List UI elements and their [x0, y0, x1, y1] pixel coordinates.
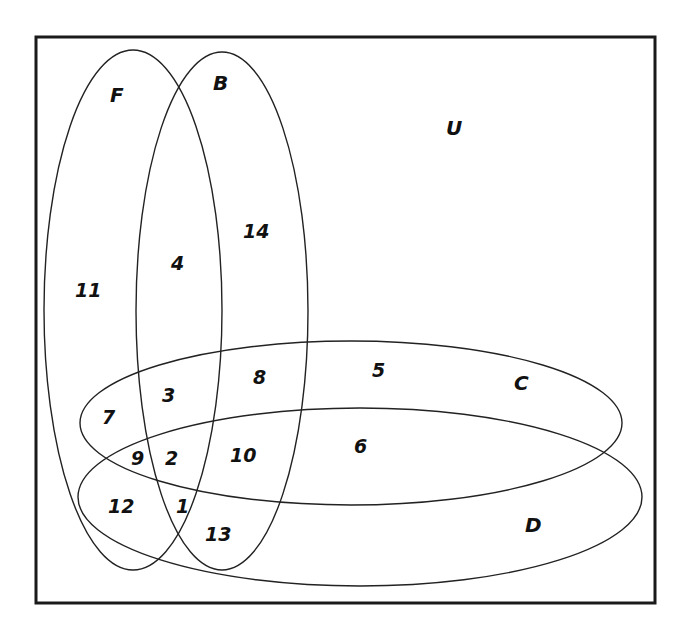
region-value: 12	[108, 495, 134, 517]
venn-diagram: U F B C D 11 4 14 7 3 8 5 9 2 10 6 12 1 …	[0, 0, 680, 629]
set-f-label: F	[110, 83, 124, 107]
universe-frame	[36, 37, 655, 603]
region-value: 4	[170, 252, 184, 274]
region-value: 9	[131, 447, 144, 469]
region-value: 8	[253, 366, 266, 388]
set-d-label: D	[525, 513, 542, 537]
region-value: 14	[243, 220, 269, 242]
region-value: 2	[165, 447, 178, 469]
set-c-label: C	[514, 371, 529, 395]
region-value: 6	[354, 435, 367, 457]
region-value: 1	[176, 495, 189, 517]
region-value: 7	[102, 406, 116, 428]
region-value: 11	[75, 279, 101, 301]
set-b-label: B	[213, 71, 228, 95]
region-value: 5	[372, 359, 385, 381]
universe-label: U	[446, 116, 462, 140]
region-value: 10	[230, 444, 256, 466]
region-value: 13	[205, 523, 231, 545]
region-value: 3	[162, 384, 175, 406]
